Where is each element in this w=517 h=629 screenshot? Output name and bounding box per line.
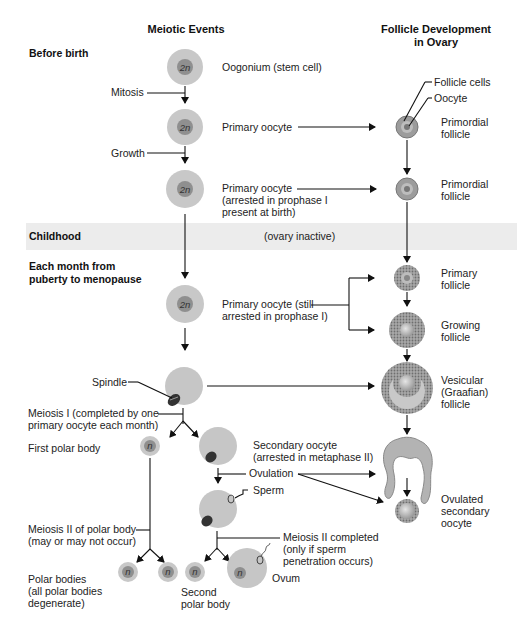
ovum-cell: n [227,543,270,588]
ovulated-line2: secondary [441,505,490,517]
second-polar-body: n [185,562,205,582]
mitosis-label: Mitosis [111,86,144,98]
meiosis2-completed-line1: Meiosis II completed [283,531,379,543]
ovulated-secondary-oocyte [395,499,419,523]
meiosis2-completed-line2: (only if sperm [283,543,346,555]
svg-text:2n: 2n [179,299,191,310]
spindle-label: Spindle [92,376,127,388]
follicle-development-header-line1: Follicle Development [381,23,491,35]
primary-follicle [394,265,420,291]
primary-arrested-line3: present at birth) [222,206,296,218]
vesicular-follicle-line1: Vesicular [441,374,484,386]
ovum-label: Ovum [272,572,300,584]
polar-body-2: n [158,562,178,582]
primary-oocyte-cell: 2n [167,109,203,145]
polar-bodies-line3: degenerate) [28,597,85,609]
vesicular-follicle [381,362,433,414]
svg-text:n: n [237,567,242,578]
primordial-follicle-2 [396,178,418,200]
ovulation-label: Ovulation [249,467,294,479]
primary-still-line2: arrested in prophase I) [222,310,328,322]
svg-text:2n: 2n [179,184,191,195]
primary-oocyte-label: Primary oocyte [222,121,292,133]
secondary-oocyte-line2: (arrested in metaphase II) [253,451,373,463]
meiosis2-polar-line1: Meiosis II of polar body [28,523,137,535]
primary-arrested-line1: Primary oocyte [222,182,292,194]
ruptured-follicle [383,437,432,503]
svg-text:2n: 2n [179,122,191,133]
vesicular-follicle-line2: (Graafian) [441,386,488,398]
polar-bodies-line2: (all polar bodies [28,585,102,597]
svg-text:n: n [147,440,152,451]
sperm-label: Sperm [253,484,284,496]
second-polar-body-line2: polar body [181,598,231,610]
meiosis1-line2: primary oocyte each month) [28,419,158,431]
primary-oocyte-still-arrested-cell: 2n [166,285,204,323]
stage-each-month-line2: puberty to menopause [29,273,142,285]
svg-text:n: n [192,566,197,577]
secondary-oocyte-cell [199,427,237,465]
meiotic-events-header: Meiotic Events [147,23,224,35]
oocyte-label: Oocyte [434,92,467,104]
secondary-oocyte-line1: Secondary oocyte [253,439,337,451]
first-polar-body-cell: n [140,436,160,456]
meiosis2-polar-line2: (may or may not occur) [28,535,136,547]
oogenesis-diagram: Meiotic Events Follicle Development in O… [0,0,517,629]
primordial-follicle-1-line1: Primordial [441,116,488,128]
growing-follicle-line2: follicle [441,331,470,343]
stage-childhood: Childhood [29,230,81,242]
polar-bodies-line1: Polar bodies [28,573,86,585]
primordial-follicle-2-line2: follicle [441,190,470,202]
first-polar-body-label: First polar body [28,442,101,454]
primordial-follicle-1-line2: follicle [441,128,470,140]
oogonium-cell: 2n [167,49,203,85]
oogonium-label: Oogonium (stem cell) [222,61,322,73]
secondary-oocyte-with-sperm-cell [199,490,237,529]
svg-text:2n: 2n [179,62,191,73]
meiosis1-line1: Meiosis I (completed by one [28,407,159,419]
second-polar-body-line1: Second [181,586,217,598]
primary-arrested-line2: (arrested in prophase I [222,194,328,206]
primordial-follicle-2-line1: Primordial [441,178,488,190]
primary-follicle-line1: Primary [441,267,478,279]
svg-text:n: n [125,566,130,577]
follicle-development-header-line2: in Ovary [414,36,459,48]
primordial-follicle-1 [396,116,418,138]
follicle-cells-label: Follicle cells [434,76,491,88]
stage-each-month-line1: Each month from [29,260,115,272]
vesicular-follicle-line3: follicle [441,398,470,410]
ovary-inactive-label: (ovary inactive) [264,230,335,242]
primary-oocyte-arrested-cell: 2n [166,170,204,208]
ovulated-line3: oocyte [441,517,472,529]
primary-follicle-line2: follicle [441,279,470,291]
primary-oocyte-spindle-cell [165,367,203,408]
meiosis2-completed-line3: penetration occurs) [283,555,373,567]
growing-follicle-line1: Growing [441,319,480,331]
polar-body-1: n [118,562,138,582]
stage-before-birth: Before birth [29,47,89,59]
growth-label: Growth [111,147,145,159]
ovulated-line1: Ovulated [441,493,483,505]
growing-follicle [389,312,425,348]
svg-text:n: n [165,566,170,577]
primary-still-line1: Primary oocyte (still [222,298,314,310]
